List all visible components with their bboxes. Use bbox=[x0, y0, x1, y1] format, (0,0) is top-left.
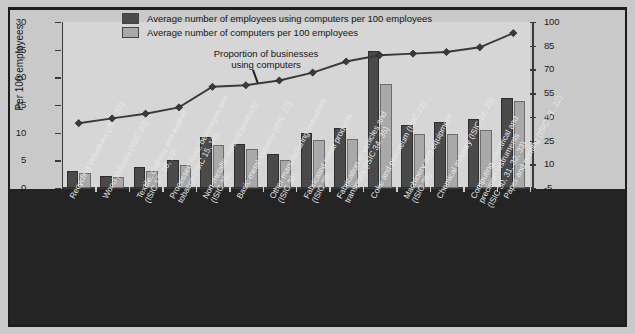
left-y-tick-mark bbox=[55, 22, 61, 23]
proportion-line-marker bbox=[343, 58, 350, 65]
chart-figure: 051015202530 Per 100 employees Proportio… bbox=[0, 0, 635, 334]
left-y-tick-mark bbox=[55, 188, 61, 189]
left-y-tick-mark bbox=[55, 105, 61, 106]
left-y-tick-mark bbox=[55, 77, 61, 78]
proportion-line-marker bbox=[510, 29, 517, 36]
proportion-line-marker bbox=[142, 110, 149, 117]
proportion-line-marker bbox=[75, 120, 82, 127]
proportion-line-marker bbox=[476, 44, 483, 51]
proportion-line-marker bbox=[276, 77, 283, 84]
left-y-axis: 051015202530 bbox=[0, 0, 62, 210]
left-y-axis-title: Per 100 employees bbox=[14, 3, 25, 133]
left-y-tick-label: 0 bbox=[2, 182, 26, 193]
proportion-line-marker bbox=[109, 115, 116, 122]
right-y-tick-label: 25 bbox=[544, 135, 570, 146]
proportion-line-marker bbox=[376, 52, 383, 59]
proportion-line-series bbox=[62, 22, 532, 188]
left-y-tick-mark bbox=[55, 160, 61, 161]
left-y-tick-label: 5 bbox=[2, 154, 26, 165]
proportion-line-marker bbox=[309, 69, 316, 76]
proportion-line-marker bbox=[409, 50, 416, 57]
right-y-tick-label: -5 bbox=[544, 182, 570, 193]
frame-border-bottom bbox=[8, 324, 627, 327]
left-y-tick-mark bbox=[55, 133, 61, 134]
right-y-axis: Proportion using computers (per cent) -5… bbox=[530, 0, 635, 210]
proportion-line-path bbox=[79, 33, 514, 123]
right-y-tick-label: 100 bbox=[544, 16, 570, 27]
left-y-tick-mark bbox=[55, 50, 61, 51]
right-y-tick-label: 70 bbox=[544, 63, 570, 74]
right-y-tick-label: 85 bbox=[544, 40, 570, 51]
right-y-tick-label: 10 bbox=[544, 158, 570, 169]
proportion-line-marker bbox=[443, 48, 450, 55]
proportion-line-marker bbox=[242, 82, 249, 89]
